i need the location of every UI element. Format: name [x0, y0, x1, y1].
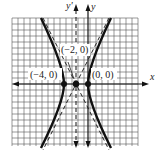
point-center	[73, 81, 79, 87]
points	[61, 81, 91, 87]
x-axis-left-arrow-icon	[12, 82, 19, 87]
point-right	[85, 81, 91, 87]
point-left	[61, 81, 67, 87]
x-axis-right-arrow-icon	[142, 82, 149, 87]
point-left-label: (−4, 0)	[30, 69, 57, 81]
x-axis	[12, 82, 149, 87]
x-axis-label: x	[149, 71, 155, 82]
y-axis-up-arrow-icon	[86, 4, 91, 11]
point-right-label: (0, 0)	[92, 69, 114, 81]
y-axis-label: y	[90, 1, 96, 12]
y-prime-axis-label: y'	[65, 0, 73, 11]
graph: (−4, 0) (−2, 0) (0, 0) x y y'	[0, 0, 158, 150]
y-prime-axis-up-arrow-icon	[74, 4, 79, 11]
point-center-label: (−2, 0)	[61, 44, 88, 56]
